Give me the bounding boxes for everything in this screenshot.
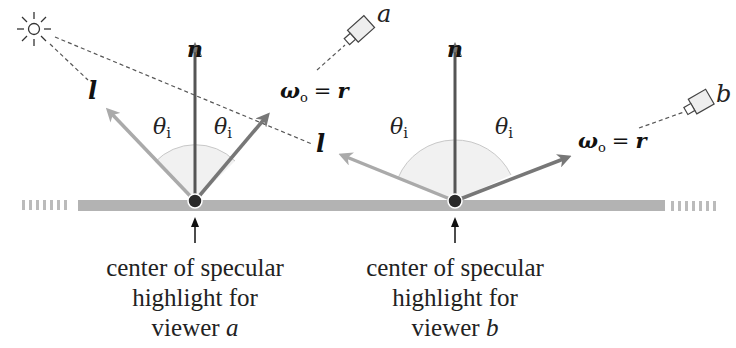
theta-right-a: θi — [214, 114, 232, 142]
surface — [22, 200, 716, 211]
view-ray-b — [639, 112, 684, 128]
viewer-a-label: a — [377, 0, 391, 28]
caption-b-line-2: highlight for — [392, 284, 518, 311]
light-ray-a — [50, 44, 88, 80]
theta-left-b: θi — [390, 114, 408, 142]
caption-b: center of specular highlight for viewer … — [366, 254, 544, 341]
caption-b-line-3: viewer b — [412, 314, 499, 341]
caption-a-line-3: viewer a — [152, 314, 239, 341]
normal-label-b: n — [447, 36, 463, 62]
light-label-b: l — [316, 129, 325, 158]
highlight-point-b — [448, 194, 462, 208]
caption-a-line-2: highlight for — [132, 284, 258, 311]
normal-label-a: n — [187, 36, 203, 62]
caption-b-line-1: center of specular — [366, 254, 544, 281]
view-ray-a — [317, 45, 345, 70]
omega-r-label-b: ωo=r — [578, 128, 648, 155]
camera-b-icon — [681, 89, 714, 118]
viewer-b-label: b — [716, 80, 731, 108]
caption-a-line-1: center of specular — [106, 254, 284, 281]
specular-reflection-diagram: a b n l θi θi ωo=r n l θi θi ωo=r — [0, 0, 736, 348]
surface-bar — [78, 200, 665, 211]
surface-dashes-right — [671, 201, 716, 211]
config-b: n l θi θi ωo=r — [316, 36, 648, 243]
light-label-a: l — [88, 76, 97, 105]
caption-a: center of specular highlight for viewer … — [106, 254, 284, 341]
surface-dashes-left — [22, 200, 67, 210]
sun-icon — [17, 12, 51, 46]
theta-right-b: θi — [495, 114, 513, 142]
theta-left-a: θi — [153, 114, 171, 142]
omega-r-label-a: ωo=r — [280, 78, 350, 105]
camera-a-icon — [342, 16, 375, 48]
highlight-point-a — [188, 194, 202, 208]
